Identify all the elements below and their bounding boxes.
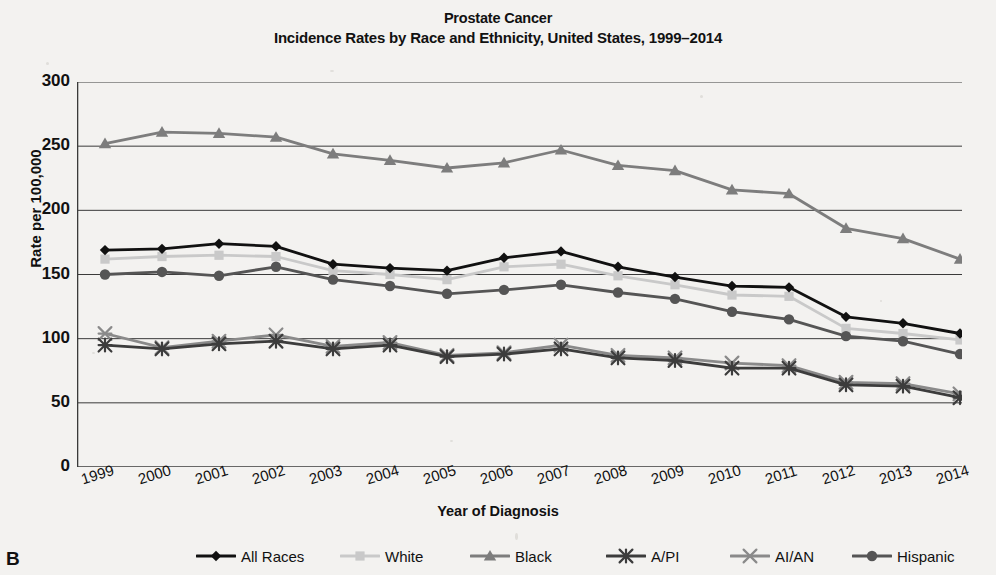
data-point-circle bbox=[100, 269, 110, 279]
data-point-diamond bbox=[271, 241, 281, 251]
data-point-diamond bbox=[100, 245, 110, 255]
legend-label: White bbox=[385, 548, 423, 565]
legend-item-a-pi[interactable]: A/PI bbox=[606, 547, 679, 565]
data-point-diamond bbox=[499, 253, 509, 263]
plot-area bbox=[77, 82, 962, 467]
data-point-circle bbox=[898, 336, 908, 346]
panel-letter: B bbox=[6, 548, 20, 570]
data-point-x bbox=[744, 550, 757, 563]
y-tick-label: 300 bbox=[26, 71, 70, 91]
data-point-triangle bbox=[840, 222, 852, 233]
data-point-circle bbox=[784, 314, 794, 324]
data-point-circle bbox=[271, 262, 281, 272]
data-point-circle bbox=[867, 551, 877, 561]
data-point-asterisk bbox=[441, 350, 454, 363]
data-point-diamond bbox=[841, 312, 851, 322]
data-point-circle bbox=[157, 267, 167, 277]
data-point-circle bbox=[841, 331, 851, 341]
data-point-asterisk bbox=[384, 339, 397, 352]
y-tick-label: 100 bbox=[26, 328, 70, 348]
y-tick-label: 50 bbox=[26, 392, 70, 412]
chart-title-line-2: Incidence Rates by Race and Ethnicity, U… bbox=[0, 28, 996, 48]
legend-marker-x-icon bbox=[730, 547, 770, 565]
data-point-diamond bbox=[211, 551, 221, 561]
scan-speck bbox=[450, 440, 453, 442]
data-point-diamond bbox=[784, 282, 794, 292]
data-point-asterisk bbox=[726, 362, 739, 375]
data-point-asterisk bbox=[327, 343, 340, 356]
data-point-diamond bbox=[727, 281, 737, 291]
legend-label: AI/AN bbox=[775, 548, 814, 565]
data-point-circle bbox=[385, 281, 395, 291]
data-point-circle bbox=[214, 271, 224, 281]
legend-marker-diamond-icon bbox=[196, 547, 236, 565]
data-point-square bbox=[442, 275, 451, 284]
scan-speck bbox=[92, 352, 95, 354]
data-point-square bbox=[556, 260, 565, 269]
legend-label: Black bbox=[515, 548, 552, 565]
series-ai-an bbox=[99, 327, 962, 400]
series-a-pi bbox=[99, 335, 962, 404]
data-point-asterisk bbox=[156, 343, 169, 356]
scan-speck bbox=[46, 62, 49, 65]
data-point-diamond bbox=[898, 318, 908, 328]
chart-title: Prostate Cancer Incidence Rates by Race … bbox=[0, 8, 996, 48]
y-tick-label: 150 bbox=[26, 264, 70, 284]
x-axis-label: Year of Diagnosis bbox=[0, 503, 996, 519]
y-tick-label: 200 bbox=[26, 199, 70, 219]
legend-label: A/PI bbox=[651, 548, 679, 565]
data-point-square bbox=[355, 551, 364, 560]
y-tick-label: 0 bbox=[26, 456, 70, 476]
data-point-diamond bbox=[556, 246, 566, 256]
legend-item-hispanic[interactable]: Hispanic bbox=[852, 547, 955, 565]
data-point-circle bbox=[556, 280, 566, 290]
data-point-square bbox=[727, 290, 736, 299]
data-point-circle bbox=[955, 349, 962, 359]
chart-canvas bbox=[77, 82, 962, 467]
series-line bbox=[105, 132, 960, 259]
data-point-circle bbox=[670, 294, 680, 304]
legend-label: All Races bbox=[241, 548, 304, 565]
scan-speck bbox=[700, 95, 703, 98]
data-point-diamond bbox=[214, 239, 224, 249]
scan-speck bbox=[330, 70, 334, 72]
data-point-square bbox=[784, 292, 793, 301]
series-line bbox=[105, 255, 960, 340]
data-point-asterisk bbox=[270, 335, 283, 348]
legend-item-black[interactable]: Black bbox=[470, 547, 552, 565]
legend-marker-asterisk-icon bbox=[606, 547, 646, 565]
legend-marker-square-icon bbox=[340, 547, 380, 565]
data-point-asterisk bbox=[783, 362, 796, 375]
data-point-asterisk bbox=[498, 348, 511, 361]
legend-label: Hispanic bbox=[897, 548, 955, 565]
data-point-asterisk bbox=[669, 354, 682, 367]
legend-marker-circle-icon bbox=[852, 547, 892, 565]
data-point-circle bbox=[499, 285, 509, 295]
data-point-square bbox=[499, 262, 508, 271]
data-point-asterisk bbox=[612, 352, 625, 365]
data-point-asterisk bbox=[555, 343, 568, 356]
scan-speck bbox=[515, 533, 518, 540]
legend-item-all-races[interactable]: All Races bbox=[196, 547, 304, 565]
data-point-asterisk bbox=[99, 339, 112, 352]
data-point-asterisk bbox=[213, 337, 226, 350]
chart-title-line-1: Prostate Cancer bbox=[0, 8, 996, 28]
data-point-square bbox=[214, 251, 223, 260]
y-tick-label: 250 bbox=[26, 135, 70, 155]
data-point-triangle bbox=[555, 144, 567, 155]
legend-marker-triangle-icon bbox=[470, 547, 510, 565]
data-point-square bbox=[100, 255, 109, 264]
data-point-asterisk bbox=[840, 378, 853, 391]
legend-item-ai-an[interactable]: AI/AN bbox=[730, 547, 814, 565]
data-point-circle bbox=[442, 289, 452, 299]
chart-figure: Prostate Cancer Incidence Rates by Race … bbox=[0, 0, 996, 575]
data-point-square bbox=[271, 252, 280, 261]
series-white bbox=[100, 251, 962, 345]
data-point-circle bbox=[328, 274, 338, 284]
data-point-asterisk bbox=[897, 380, 910, 393]
legend-item-white[interactable]: White bbox=[340, 547, 423, 565]
data-point-square bbox=[613, 271, 622, 280]
chart-legend: B All RacesWhiteBlackA/PIAI/ANHispanic bbox=[0, 545, 996, 575]
data-point-circle bbox=[727, 307, 737, 317]
data-point-diamond bbox=[613, 262, 623, 272]
